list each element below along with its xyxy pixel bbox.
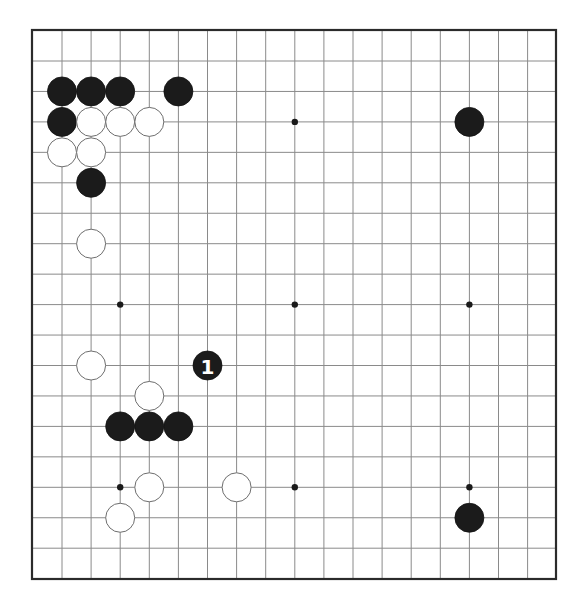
numbered-moves: 1 — [193, 351, 222, 380]
white-stone — [77, 138, 106, 167]
star-point — [466, 484, 472, 490]
star-point — [292, 119, 298, 125]
black-stone — [48, 77, 77, 106]
white-stone — [77, 351, 106, 380]
white-stone — [135, 107, 164, 136]
star-point — [292, 301, 298, 307]
white-stone — [106, 503, 135, 532]
white-stone — [106, 107, 135, 136]
numbered-stone: 1 — [193, 351, 222, 380]
white-stone — [135, 473, 164, 502]
black-stone — [106, 412, 135, 441]
black-stone — [164, 412, 193, 441]
black-stone — [106, 77, 135, 106]
white-stone — [222, 473, 251, 502]
black-stone — [135, 412, 164, 441]
star-point — [466, 301, 472, 307]
black-stone — [164, 77, 193, 106]
black-stone — [48, 107, 77, 136]
black-stone — [455, 503, 484, 532]
move-number-label: 1 — [201, 355, 215, 379]
black-stone — [77, 77, 106, 106]
white-stone — [77, 107, 106, 136]
black-stone — [77, 168, 106, 197]
white-stone — [77, 229, 106, 258]
star-point — [117, 484, 123, 490]
white-stone — [135, 381, 164, 410]
go-board: 1 — [0, 0, 565, 614]
star-point — [292, 484, 298, 490]
black-stone — [455, 107, 484, 136]
star-point — [117, 301, 123, 307]
white-stone — [48, 138, 77, 167]
